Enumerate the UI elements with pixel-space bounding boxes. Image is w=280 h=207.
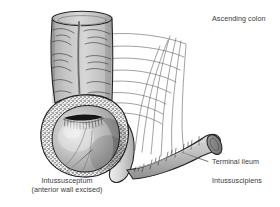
label-terminal-ileum: Terminal ileum [212,157,259,166]
label-intussusceptum-line2: (anterior wall excised) [8,185,126,194]
label-intussuscipiens: Intussuscipiens [212,176,262,185]
colon-cut-rim [52,11,112,25]
intussusceptum [41,95,129,177]
label-ascending-colon: Ascending colon [212,14,266,23]
label-intussusceptum-line1: Intussusceptum [41,176,92,185]
ascending-colon [48,11,114,108]
terminal-ileum [127,132,225,185]
label-intussusceptum: Intussusceptum(anterior wall excised) [8,176,126,195]
mesenteric-vessels [135,36,186,157]
